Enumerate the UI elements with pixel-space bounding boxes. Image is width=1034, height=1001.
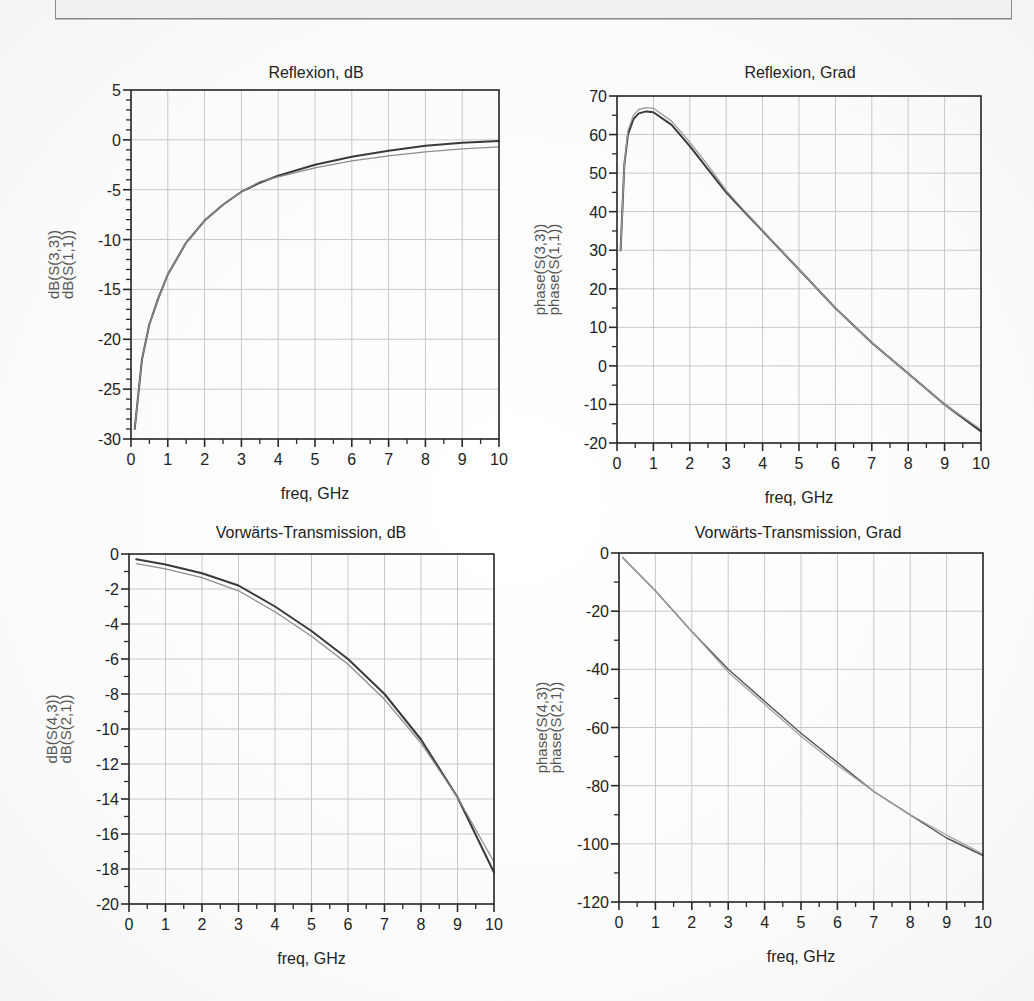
x-tick-label: 3 bbox=[237, 451, 246, 468]
y-tick-label: -10 bbox=[584, 396, 607, 413]
y-axis: 0-2-4-6-8-10-12-14-16-18-20 bbox=[96, 546, 129, 913]
x-tick-label: 0 bbox=[613, 455, 622, 472]
y-tick-label: 60 bbox=[589, 127, 607, 144]
x-tick-label: 4 bbox=[271, 916, 280, 933]
x-tick-label: 4 bbox=[760, 914, 769, 931]
y-axis: 50-5-10-15-20-25-30 bbox=[98, 82, 131, 448]
x-axis-label: freq, GHz bbox=[767, 948, 835, 965]
chart-title: Reflexion, Grad bbox=[744, 64, 855, 81]
series-db-s-4-3- bbox=[136, 559, 494, 872]
y-tick-label: 5 bbox=[112, 82, 121, 99]
x-tick-label: 1 bbox=[651, 914, 660, 931]
x-axis-label: freq, GHz bbox=[765, 489, 833, 506]
y-tick-label: -12 bbox=[96, 756, 119, 773]
chart-title: Vorwärts-Transmission, dB bbox=[216, 524, 407, 541]
y-tick-label: -20 bbox=[96, 896, 119, 913]
x-tick-label: 7 bbox=[869, 914, 878, 931]
x-tick-label: 10 bbox=[490, 451, 508, 468]
x-tick-label: 8 bbox=[421, 451, 430, 468]
x-tick-label: 9 bbox=[942, 914, 951, 931]
y-tick-label: -60 bbox=[586, 720, 609, 737]
x-tick-label: 4 bbox=[758, 455, 767, 472]
gridlines bbox=[129, 554, 494, 904]
x-tick-label: 10 bbox=[972, 455, 990, 472]
y-tick-label: 0 bbox=[598, 358, 607, 375]
y-tick-label: 10 bbox=[589, 319, 607, 336]
y-axis-label: phase(S(4,3))phase(S(2,1)) bbox=[533, 682, 564, 774]
y-tick-label: -5 bbox=[107, 182, 121, 199]
y-tick-label: -20 bbox=[98, 331, 121, 348]
x-tick-label: 0 bbox=[127, 451, 136, 468]
x-tick-label: 8 bbox=[417, 916, 426, 933]
y-tick-label: -80 bbox=[586, 778, 609, 795]
x-tick-label: 4 bbox=[274, 451, 283, 468]
chart-transmission-db: Vorwärts-Transmission, dB012345678910fre… bbox=[43, 524, 503, 967]
gridlines bbox=[131, 90, 499, 439]
x-axis: 012345678910 bbox=[125, 904, 503, 933]
y-tick-label: -20 bbox=[586, 603, 609, 620]
chart-reflexion-grad: Reflexion, Grad012345678910freq, GHz7060… bbox=[531, 64, 990, 506]
x-tick-label: 9 bbox=[453, 916, 462, 933]
x-tick-label: 10 bbox=[485, 916, 503, 933]
x-tick-label: 1 bbox=[161, 916, 170, 933]
y-tick-label: 0 bbox=[110, 546, 119, 563]
y-tick-label: 20 bbox=[589, 281, 607, 298]
y-tick-label: 30 bbox=[589, 242, 607, 259]
x-tick-label: 10 bbox=[974, 914, 992, 931]
y-axis: 706050403020100-10-20 bbox=[584, 88, 617, 452]
chart-transmission-grad: Vorwärts-Transmission, Grad012345678910f… bbox=[533, 524, 992, 965]
gridlines bbox=[619, 553, 983, 902]
x-tick-label: 0 bbox=[125, 916, 134, 933]
x-tick-label: 2 bbox=[685, 455, 694, 472]
y-tick-label: -18 bbox=[96, 861, 119, 878]
x-tick-label: 8 bbox=[906, 914, 915, 931]
x-tick-label: 9 bbox=[940, 455, 949, 472]
y-tick-label: -120 bbox=[577, 894, 609, 911]
y-tick-label: -8 bbox=[105, 686, 119, 703]
x-tick-label: 2 bbox=[200, 451, 209, 468]
y-tick-label: -100 bbox=[577, 836, 609, 853]
x-tick-label: 5 bbox=[311, 451, 320, 468]
x-axis: 012345678910 bbox=[127, 439, 508, 468]
x-tick-label: 1 bbox=[649, 455, 658, 472]
y-tick-label: -4 bbox=[105, 616, 119, 633]
y-tick-label: -16 bbox=[96, 826, 119, 843]
x-tick-label: 6 bbox=[831, 455, 840, 472]
y-axis-label: dB(S(4,3))dB(S(2,1)) bbox=[43, 694, 74, 763]
x-axis: 012345678910 bbox=[615, 902, 992, 931]
series-db-s-3-3- bbox=[135, 141, 499, 429]
x-tick-label: 1 bbox=[163, 451, 172, 468]
x-tick-label: 6 bbox=[833, 914, 842, 931]
x-tick-label: 3 bbox=[724, 914, 733, 931]
x-tick-label: 9 bbox=[458, 451, 467, 468]
series-phase-s-1-1- bbox=[621, 108, 981, 430]
x-tick-label: 5 bbox=[307, 916, 316, 933]
y-tick-label: 50 bbox=[589, 165, 607, 182]
x-tick-label: 7 bbox=[380, 916, 389, 933]
x-tick-label: 5 bbox=[795, 455, 804, 472]
y-tick-label: -6 bbox=[105, 651, 119, 668]
x-tick-label: 8 bbox=[904, 455, 913, 472]
x-tick-label: 2 bbox=[198, 916, 207, 933]
y-axis: 0-20-40-60-80-100-120 bbox=[577, 545, 619, 911]
y-tick-label: -30 bbox=[98, 431, 121, 448]
chart-grid: Reflexion, dB012345678910freq, GHz50-5-1… bbox=[0, 0, 1034, 1001]
chart-title: Vorwärts-Transmission, Grad bbox=[695, 524, 902, 541]
y-tick-label: 40 bbox=[589, 204, 607, 221]
x-tick-label: 0 bbox=[615, 914, 624, 931]
x-tick-label: 6 bbox=[344, 916, 353, 933]
y-axis-label: phase(S(3,3))phase(S(1,1)) bbox=[531, 224, 562, 316]
y-tick-label: -40 bbox=[586, 661, 609, 678]
series-db-s-1-1- bbox=[135, 147, 499, 429]
chart-title: Reflexion, dB bbox=[268, 64, 363, 81]
y-tick-label: 70 bbox=[589, 88, 607, 105]
y-tick-label: -20 bbox=[584, 435, 607, 452]
x-tick-label: 3 bbox=[722, 455, 731, 472]
y-tick-label: -25 bbox=[98, 381, 121, 398]
x-tick-label: 7 bbox=[384, 451, 393, 468]
x-axis-label: freq, GHz bbox=[281, 485, 349, 502]
x-axis: 012345678910 bbox=[613, 443, 990, 472]
x-tick-label: 6 bbox=[347, 451, 356, 468]
y-tick-label: -2 bbox=[105, 581, 119, 598]
x-tick-label: 3 bbox=[234, 916, 243, 933]
